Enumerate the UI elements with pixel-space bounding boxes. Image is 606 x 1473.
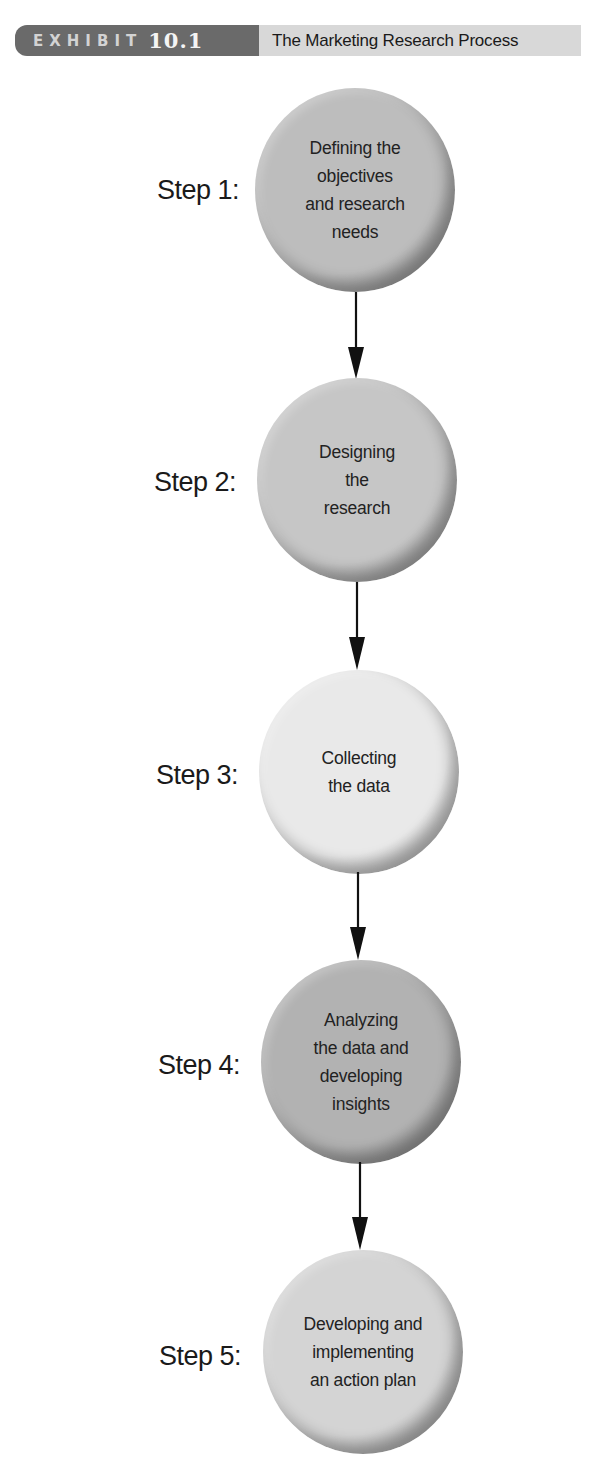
step-5-label: Step 5:: [159, 1341, 241, 1372]
step-3-text: Collecting the data: [302, 744, 417, 800]
step-5-circle: Developing and implementing an action pl…: [263, 1250, 463, 1454]
step-4-label: Step 4:: [158, 1050, 240, 1081]
step-2-label: Step 2:: [154, 467, 236, 498]
step-2-text: Designing the research: [299, 438, 415, 522]
exhibit-tab: EXHIBIT 10.1: [15, 25, 259, 56]
step-2-circle: Designing the research: [257, 378, 457, 582]
exhibit-number: 10.1: [148, 28, 203, 53]
arrow-down-icon: [349, 1162, 371, 1251]
step-4-circle: Analyzing the data and developing insigh…: [261, 960, 461, 1164]
arrow-down-icon: [345, 292, 367, 380]
step-1-circle: Defining the objectives and research nee…: [255, 88, 455, 292]
step-3-circle: Collecting the data: [259, 670, 459, 874]
step-1-text: Defining the objectives and research nee…: [285, 134, 425, 246]
arrow-down-icon: [347, 872, 369, 961]
exhibit-title: The Marketing Research Process: [272, 31, 518, 51]
step-3-label: Step 3:: [156, 760, 238, 791]
arrow-down-icon: [346, 582, 368, 671]
exhibit-header: EXHIBIT 10.1 The Marketing Research Proc…: [15, 25, 581, 56]
step-5-text: Developing and implementing an action pl…: [284, 1310, 443, 1394]
step-4-text: Analyzing the data and developing insigh…: [294, 1006, 429, 1118]
exhibit-title-box: The Marketing Research Process: [259, 25, 581, 56]
step-1-label: Step 1:: [157, 175, 239, 206]
exhibit-word: EXHIBIT: [33, 32, 142, 50]
